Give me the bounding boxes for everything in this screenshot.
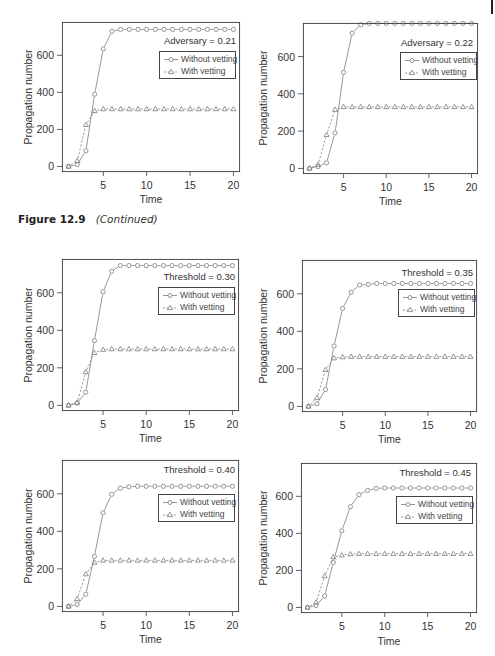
y-tick-label: 400 — [14, 86, 54, 98]
triangle-marker-icon — [459, 354, 464, 358]
circle-marker-icon — [213, 263, 217, 267]
circle-marker-icon — [127, 27, 131, 31]
x-tick-label: 10 — [370, 620, 400, 632]
legend: Without vetting With vetting — [396, 496, 473, 524]
circle-marker-icon — [383, 486, 387, 490]
triangle-marker-icon — [339, 553, 344, 557]
legend-label: Without vetting — [180, 497, 236, 508]
x-tick-label: 20 — [455, 620, 485, 632]
plot-frame — [301, 463, 476, 612]
circle-marker-icon — [222, 484, 226, 488]
circle-marker-icon — [417, 281, 421, 285]
y-tick-label: 0 — [254, 400, 294, 412]
legend-label: Without vetting — [422, 55, 478, 66]
triangle-marker-icon — [144, 346, 149, 350]
triangle-marker-icon — [153, 106, 158, 110]
circle-marker-icon — [84, 592, 88, 596]
circle-marker-icon — [391, 486, 395, 490]
triangle-marker-icon — [205, 106, 210, 110]
circle-marker-icon — [163, 54, 179, 65]
x-tick-label: 5 — [88, 418, 118, 430]
triangle-marker-icon — [144, 106, 149, 110]
legend-item-without-vetting: Without vetting — [401, 55, 476, 66]
x-tick-label: 5 — [329, 181, 359, 193]
circle-marker-icon — [161, 484, 165, 488]
series-with-vetting — [305, 551, 473, 609]
triangle-marker-icon — [221, 558, 226, 562]
triangle-marker-icon — [408, 354, 413, 358]
circle-marker-icon — [187, 484, 191, 488]
legend: Without vetting With vetting — [158, 287, 235, 315]
series-with-vetting — [307, 104, 474, 170]
figure-note: (Continued) — [96, 213, 158, 225]
circle-marker-icon — [358, 283, 362, 287]
triangle-marker-icon — [358, 104, 363, 108]
plot-area — [302, 260, 477, 412]
x-tick-label: 15 — [414, 181, 444, 193]
y-tick-label: 0 — [14, 160, 54, 172]
triangle-marker-icon — [187, 558, 192, 562]
circle-marker-icon — [204, 484, 208, 488]
circle-marker-icon — [468, 281, 472, 285]
circle-marker-icon — [357, 493, 361, 497]
triangle-marker-icon — [417, 354, 422, 358]
circle-marker-icon — [230, 484, 234, 488]
circle-marker-icon — [101, 290, 105, 294]
triangle-marker-icon — [333, 107, 338, 111]
legend-label: With vetting — [181, 66, 225, 77]
circle-marker-icon — [75, 162, 79, 166]
triangle-marker-icon — [459, 551, 464, 555]
triangle-marker-icon — [118, 346, 123, 350]
triangle-marker-icon — [434, 551, 439, 555]
circle-marker-icon — [340, 529, 344, 533]
legend: Without vetting With vetting — [398, 289, 475, 317]
circle-marker-icon — [101, 511, 105, 515]
triangle-marker-icon — [83, 122, 88, 126]
triangle-marker-icon — [426, 104, 431, 108]
circle-marker-icon — [332, 344, 336, 348]
triangle-marker-icon — [109, 106, 114, 110]
circle-marker-icon — [118, 486, 122, 490]
y-tick-label: 400 — [254, 325, 294, 337]
triangle-marker-icon — [135, 106, 140, 110]
circle-marker-icon — [92, 554, 96, 558]
legend-label: Without vetting — [180, 290, 236, 301]
triangle-marker-icon — [196, 106, 201, 110]
circle-marker-icon — [340, 306, 344, 310]
circle-marker-icon — [425, 486, 429, 490]
triangle-marker-icon — [231, 106, 236, 110]
chart-annotation: Adversary = 0.22 — [401, 37, 473, 48]
legend-item-with-vetting: With vetting — [160, 66, 235, 77]
y-tick-label: 0 — [14, 399, 54, 411]
circle-marker-icon — [196, 484, 200, 488]
y-tick-label: 400 — [14, 324, 54, 336]
circle-marker-icon — [144, 263, 148, 267]
triangle-marker-icon — [366, 354, 371, 358]
circle-marker-icon — [374, 486, 378, 490]
circle-marker-icon — [365, 488, 369, 492]
triangle-marker-icon — [375, 104, 380, 108]
circle-marker-icon — [162, 497, 178, 508]
triangle-marker-icon — [101, 347, 106, 351]
triangle-marker-icon — [214, 106, 219, 110]
triangle-marker-icon — [204, 346, 209, 350]
circle-marker-icon — [187, 263, 191, 267]
circle-marker-icon — [468, 486, 472, 490]
triangle-marker-icon — [350, 104, 355, 108]
triangle-marker-icon — [443, 104, 448, 108]
x-axis-label: Time — [62, 432, 239, 444]
circle-marker-icon — [170, 484, 174, 488]
series-without-vetting — [66, 263, 234, 407]
circle-marker-icon — [136, 27, 140, 31]
circle-marker-icon — [179, 484, 183, 488]
triangle-marker-icon — [92, 560, 97, 564]
circle-marker-icon — [223, 27, 227, 31]
legend-item-without-vetting: Without vetting — [397, 499, 472, 510]
triangle-marker-icon — [442, 354, 447, 358]
triangle-marker-icon — [195, 558, 200, 562]
triangle-marker-icon — [75, 158, 80, 162]
triangle-marker-icon — [408, 551, 413, 555]
circle-marker-icon — [323, 387, 327, 391]
circle-marker-icon — [366, 282, 370, 286]
series-with-vetting — [66, 558, 235, 608]
